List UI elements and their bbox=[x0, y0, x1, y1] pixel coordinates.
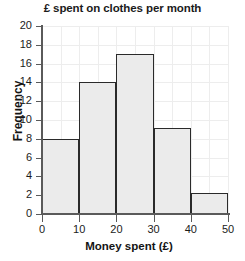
histogram-chart: £ spent on clothes per month Frequency M… bbox=[0, 0, 245, 261]
x-axis-tick-label: 50 bbox=[213, 223, 243, 235]
y-axis-tick bbox=[36, 64, 42, 65]
x-axis-tick bbox=[116, 215, 117, 222]
gridline-vertical bbox=[209, 26, 210, 214]
y-axis-tick bbox=[36, 82, 42, 83]
plot-area bbox=[42, 26, 228, 214]
y-axis-tick-label: 4 bbox=[6, 169, 32, 181]
histogram-bar bbox=[42, 139, 79, 214]
histogram-bar bbox=[79, 82, 116, 214]
y-axis-tick-label: 18 bbox=[6, 38, 32, 50]
x-axis-title: Money spent (£) bbox=[28, 240, 230, 252]
y-axis-tick bbox=[36, 26, 42, 27]
y-axis-tick bbox=[36, 158, 42, 159]
y-axis-tick-label: 10 bbox=[6, 113, 32, 125]
y-axis-tick bbox=[36, 139, 42, 140]
y-axis-tick-label: 16 bbox=[6, 57, 32, 69]
y-axis-tick-label: 12 bbox=[6, 94, 32, 106]
y-axis-tick bbox=[36, 45, 42, 46]
histogram-bar bbox=[154, 128, 191, 214]
chart-title: £ spent on clothes per month bbox=[0, 2, 245, 14]
x-axis-tick-label: 20 bbox=[101, 223, 131, 235]
y-axis-tick-label: 2 bbox=[6, 188, 32, 200]
y-axis-tick-label: 8 bbox=[6, 132, 32, 144]
x-axis-tick bbox=[154, 215, 155, 222]
y-axis-tick bbox=[36, 176, 42, 177]
y-axis-tick-label: 20 bbox=[6, 19, 32, 31]
x-axis-tick bbox=[228, 215, 229, 222]
gridline-vertical bbox=[228, 26, 229, 214]
x-axis-tick bbox=[42, 215, 43, 222]
y-axis-tick bbox=[36, 120, 42, 121]
x-axis-line bbox=[41, 213, 230, 215]
x-axis-tick bbox=[191, 215, 192, 222]
y-axis-title: Frequency bbox=[11, 56, 25, 166]
y-axis-tick-label: 14 bbox=[6, 75, 32, 87]
y-axis-tick-label: 6 bbox=[6, 151, 32, 163]
x-axis-tick-label: 40 bbox=[176, 223, 206, 235]
y-axis-tick-label: 0 bbox=[6, 207, 32, 219]
x-axis-tick-label: 10 bbox=[64, 223, 94, 235]
gridline-vertical bbox=[191, 26, 192, 214]
x-axis-tick-label: 30 bbox=[139, 223, 169, 235]
y-axis-tick bbox=[36, 101, 42, 102]
y-axis-tick bbox=[36, 195, 42, 196]
histogram-bar bbox=[116, 54, 153, 214]
x-axis-tick-label: 0 bbox=[27, 223, 57, 235]
histogram-bar bbox=[191, 193, 228, 214]
x-axis-tick bbox=[79, 215, 80, 222]
